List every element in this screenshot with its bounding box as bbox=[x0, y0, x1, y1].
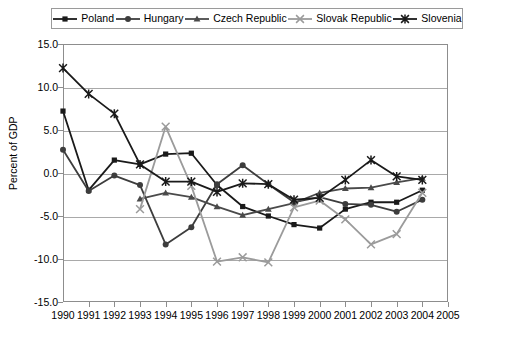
x-axis-tick-label: 2005 bbox=[428, 310, 468, 321]
legend-item-czech-republic[interactable]: Czech Republic bbox=[184, 13, 287, 25]
y-axis-tick-mark bbox=[58, 259, 63, 260]
data-point-square-marker bbox=[63, 16, 68, 21]
y-axis-tick-label: 5.0 bbox=[18, 125, 58, 136]
x-axis-tick-mark bbox=[114, 302, 115, 307]
x-axis-tick-mark bbox=[294, 302, 295, 307]
gridline bbox=[64, 174, 447, 175]
legend-label: Hungary bbox=[144, 13, 184, 24]
legend-marker-star-icon bbox=[392, 13, 418, 25]
x-axis-tick-mark bbox=[397, 302, 398, 307]
y-axis-tick-mark bbox=[58, 302, 63, 303]
x-axis-tick-mark bbox=[89, 302, 90, 307]
y-axis-tick-mark bbox=[58, 87, 63, 88]
y-axis-tick-label: 15.0 bbox=[18, 39, 58, 50]
y-axis-tick-mark bbox=[58, 44, 63, 45]
gridline bbox=[64, 260, 447, 261]
y-axis-tick-label: -5.0 bbox=[18, 211, 58, 222]
legend-label: Slovenia bbox=[421, 13, 461, 24]
gridline bbox=[64, 88, 447, 89]
x-axis-tick-mark bbox=[191, 302, 192, 307]
y-axis-tick-label: 0.0 bbox=[18, 168, 58, 179]
legend-item-slovak-republic[interactable]: Slovak Republic bbox=[287, 13, 391, 25]
gridline bbox=[64, 217, 447, 218]
x-axis-tick-mark bbox=[345, 302, 346, 307]
legend-marker-circle-icon bbox=[115, 13, 141, 25]
x-axis-tick-mark bbox=[268, 302, 269, 307]
x-axis-tick-mark bbox=[217, 302, 218, 307]
x-axis-tick-mark bbox=[166, 302, 167, 307]
x-axis-tick-mark bbox=[422, 302, 423, 307]
legend-label: Czech Republic bbox=[213, 13, 287, 24]
legend-label: Poland bbox=[81, 13, 114, 24]
legend-item-poland[interactable]: Poland bbox=[52, 13, 114, 25]
plot-area bbox=[63, 44, 448, 302]
y-axis-tick-label: -15.0 bbox=[18, 297, 58, 308]
x-axis-tick-mark bbox=[140, 302, 141, 307]
x-axis-tick-mark bbox=[243, 302, 244, 307]
legend-item-slovenia[interactable]: Slovenia bbox=[392, 13, 461, 25]
legend-item-hungary[interactable]: Hungary bbox=[115, 13, 184, 25]
x-axis-tick-mark bbox=[320, 302, 321, 307]
y-axis-tick-mark bbox=[58, 216, 63, 217]
y-axis-tick-mark bbox=[58, 130, 63, 131]
chart-legend: PolandHungaryCzech RepublicSlovak Republ… bbox=[51, 8, 463, 29]
legend-label: Slovak Republic bbox=[316, 13, 391, 24]
chart-container: PolandHungaryCzech RepublicSlovak Republ… bbox=[0, 0, 513, 356]
y-axis-tick-mark bbox=[58, 173, 63, 174]
y-axis-tick-label: 10.0 bbox=[18, 82, 58, 93]
x-axis-tick-mark bbox=[448, 302, 449, 307]
x-axis-tick-mark bbox=[371, 302, 372, 307]
data-point-circle-marker bbox=[125, 16, 131, 22]
legend-marker-triangle-icon bbox=[184, 13, 210, 25]
y-axis-tick-labels: 15.010.05.00.0-5.0-10.0-15.0 bbox=[8, 0, 58, 356]
legend-marker-x-icon bbox=[287, 13, 313, 25]
y-axis-tick-label: -10.0 bbox=[18, 254, 58, 265]
gridline bbox=[64, 131, 447, 132]
